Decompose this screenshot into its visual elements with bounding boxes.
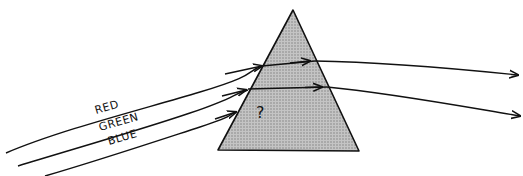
prism-diagram: RED GREEN BLUE ? [0, 0, 523, 176]
ray-red-arrow-icon [225, 66, 262, 74]
internal-arrow-icon [305, 87, 322, 88]
ray-exit-lower [327, 87, 520, 116]
ray-exit-upper [315, 61, 518, 75]
diagram-svg: RED GREEN BLUE ? [0, 0, 523, 176]
prism [218, 10, 359, 151]
unknown-question-mark: ? [256, 103, 265, 122]
ray-blue-incoming [45, 112, 236, 176]
label-red: RED [93, 98, 120, 117]
